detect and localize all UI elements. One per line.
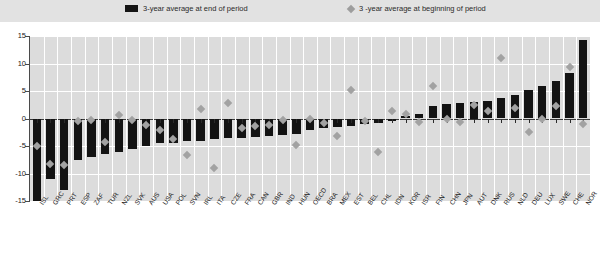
gridline-vertical [249,36,250,201]
gridline-vertical [208,36,209,201]
bar [101,119,109,155]
y-axis-tick [25,201,30,202]
gridline-vertical [139,36,140,201]
legend-item-marker-series: 3 -year average at beginning of period [348,4,486,13]
gridline-vertical [330,36,331,201]
y-axis-tick-label: 5 [2,87,26,95]
gridline-vertical [576,36,577,201]
data-marker-diamond [333,132,341,140]
axis-tick [392,119,393,123]
gridline-vertical [235,36,236,201]
bar [497,98,505,118]
gridline-vertical [126,36,127,201]
legend-item-bar-series: 3-year average at end of period [125,4,248,13]
gridline [30,36,590,37]
gridline-vertical [440,36,441,201]
gridline-vertical [167,36,168,201]
gridline-vertical [71,36,72,201]
axis-tick [105,119,106,123]
y-axis-tick [25,64,30,65]
data-marker-diamond [497,54,505,62]
y-axis-tick-label: -10 [2,170,26,178]
data-marker-diamond [224,99,232,107]
axis-tick [160,119,161,123]
y-axis-tick [25,119,30,120]
data-marker-diamond [292,141,300,149]
y-axis-tick-label: 15 [2,32,26,40]
y-axis-labels: 151050-5-10-15 [0,36,26,202]
data-marker-diamond [374,147,382,155]
gridline [30,64,590,65]
gridline-vertical [358,36,359,201]
data-marker-diamond [524,128,532,136]
gridline-vertical [44,36,45,201]
axis-tick [406,119,407,123]
data-marker-diamond [565,63,573,71]
y-axis-tick [25,91,30,92]
y-axis-tick-label: 10 [2,60,26,68]
gridline-vertical [112,36,113,201]
data-marker-diamond [388,107,396,115]
data-marker-diamond [210,164,218,172]
axis-tick [228,119,229,123]
gridline-vertical [317,36,318,201]
gridline-vertical [371,36,372,201]
gridline-vertical [85,36,86,201]
data-marker-diamond [347,86,355,94]
gridline-vertical [399,36,400,201]
gridline-vertical [153,36,154,201]
data-marker-diamond [429,82,437,90]
gridline-vertical [467,36,468,201]
bar [46,119,54,180]
axis-tick [64,119,65,123]
bar [579,40,587,118]
y-axis-tick [25,36,30,37]
axis-tick [501,119,502,123]
axis-tick [201,119,202,123]
x-axis-labels: ISLGRCPRTESPZAFTURNZLSVKAUSUSAPOLSVNIRLI… [30,202,590,257]
axis-tick [173,119,174,123]
data-marker-diamond [196,105,204,113]
axis-tick [433,119,434,123]
plot-area [30,36,590,201]
legend-label-marker: 3 -year average at beginning of period [359,4,486,13]
axis-tick [570,119,571,123]
y-axis-tick [25,146,30,147]
axis-tick [378,119,379,123]
gridline [30,91,590,92]
axis-tick [529,119,530,123]
y-axis-tick-label: -15 [2,197,26,205]
gridline-vertical [98,36,99,201]
axis-tick [556,119,557,123]
bar [524,90,532,118]
bar [565,73,573,118]
gridline-vertical [535,36,536,201]
axis-tick [515,119,516,123]
gridline-vertical [57,36,58,201]
gridline-vertical [344,36,345,201]
diamond-swatch-icon [347,4,355,12]
gridline-vertical [494,36,495,201]
gridline-vertical [262,36,263,201]
bar [429,106,437,119]
bar [456,103,464,118]
data-marker-diamond [183,151,191,159]
legend-label-bar: 3-year average at end of period [143,4,248,13]
bar [60,119,68,191]
gridline-vertical [194,36,195,201]
axis-tick [37,119,38,123]
axis-tick [214,119,215,123]
gridline-vertical [453,36,454,201]
gridline-vertical [481,36,482,201]
bar-swatch-icon [125,5,138,12]
gridline-vertical [563,36,564,201]
gridline-vertical [276,36,277,201]
y-axis-tick [25,174,30,175]
gridline-vertical [290,36,291,201]
y-axis-tick-label: -5 [2,142,26,150]
bar [538,86,546,119]
y-axis-tick-label: 0 [2,115,26,123]
gridline [30,174,590,175]
axis-tick [296,119,297,123]
data-marker-diamond [579,120,587,128]
